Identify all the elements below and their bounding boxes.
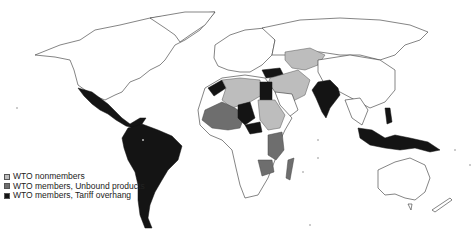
legend-label: WTO members, Tariff overhang (13, 191, 131, 201)
island-dot (142, 139, 144, 141)
legend-item-overhang: WTO members, Tariff overhang (4, 191, 145, 201)
nonmembers-swatch-icon (4, 174, 10, 180)
island-dot (469, 164, 471, 166)
indonesia (358, 128, 440, 152)
madagascar (286, 158, 294, 180)
island-dot (309, 224, 311, 226)
philippines (385, 108, 392, 124)
east-africa-unbound (268, 132, 284, 160)
island-dot (454, 149, 456, 151)
new-zealand (432, 198, 452, 212)
island-dot (317, 139, 319, 141)
india (312, 80, 340, 118)
unbound-swatch-icon (4, 183, 10, 189)
tasmania (408, 204, 412, 210)
island-dot (302, 171, 304, 173)
australia (378, 158, 430, 200)
island-dot (317, 157, 319, 159)
overhang-swatch-icon (4, 193, 10, 199)
map-legend: WTO nonmembers WTO members, Unbound prod… (4, 172, 145, 201)
world-map (0, 0, 476, 246)
island-dot (16, 107, 18, 109)
europe (214, 28, 275, 72)
egypt (260, 82, 272, 100)
